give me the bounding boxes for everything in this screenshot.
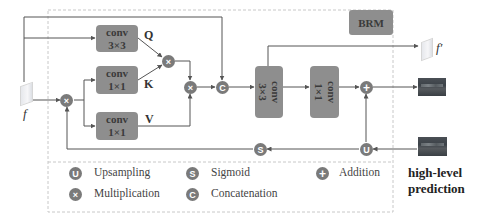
legend-upsample-icon: U [69, 167, 82, 180]
legend-concatenation-symbol: C [189, 190, 196, 200]
brm-module-label: BRM [349, 10, 393, 35]
legend-multiplication-label: Multiplication [94, 187, 160, 199]
input-label: f [23, 106, 27, 122]
legend-concatenation-label: Concatenation [211, 187, 277, 199]
multiply-symbol: × [64, 96, 69, 106]
conv-k-line1: conv [106, 67, 128, 80]
conv-fuse-line1: conv [269, 81, 282, 103]
output-feature-label: f′ [436, 40, 442, 56]
conv-q-block: conv 3×3 [96, 25, 138, 52]
conv-k-line2: 1×1 [108, 80, 125, 93]
high-level-line2: prediction [408, 181, 465, 197]
legend-addition-label: Addition [339, 166, 380, 178]
add-symbol: + [363, 81, 370, 95]
add-operator: + [360, 81, 373, 94]
multiply-qk-operator: × [162, 55, 175, 68]
conv-v-block: conv 1×1 [96, 112, 138, 140]
conv-k-block: conv 1×1 [96, 66, 138, 94]
sigmoid-operator: S [254, 143, 267, 156]
conv-fuse-line2: 3×3 [256, 83, 269, 100]
concat-operator: C [216, 81, 229, 94]
conv-v-line1: conv [106, 113, 128, 126]
conv-v-line2: 1×1 [108, 126, 125, 139]
legend-addition-symbol: + [319, 167, 326, 181]
conv-out-line2: 1×1 [312, 83, 325, 100]
multiply-input-operator: × [60, 94, 73, 107]
concat-symbol: C [219, 83, 226, 93]
legend-upsample-label: Upsampling [94, 166, 150, 178]
q-label: Q [144, 28, 153, 43]
legend-sigmoid-symbol: S [189, 169, 195, 179]
legend-multiplication-icon: × [69, 188, 82, 201]
output-prediction-image [418, 78, 446, 96]
diagram-connections [0, 0, 478, 217]
conv-fuse-text: conv 3×3 [256, 81, 282, 103]
legend-upsample-symbol: U [72, 169, 79, 179]
legend-sigmoid-icon: S [186, 167, 199, 180]
k-label: K [144, 77, 153, 92]
high-level-prediction-image [418, 137, 447, 156]
conv-out-text: conv 1×1 [312, 81, 338, 103]
upsample-operator: U [360, 143, 373, 156]
high-level-line1: high-level [408, 165, 465, 181]
upsample-symbol: U [363, 145, 370, 155]
conv-out-block: conv 1×1 [310, 66, 339, 118]
legend-multiplication-symbol: × [73, 190, 78, 200]
legend-addition-icon: + [316, 167, 329, 180]
legend-sigmoid-label: Sigmoid [211, 166, 250, 178]
sigmoid-symbol: S [257, 145, 263, 155]
conv-out-line1: conv [325, 81, 338, 103]
high-level-prediction-label: high-level prediction [408, 165, 465, 197]
multiply-symbol: × [188, 83, 193, 93]
legend-concatenation-icon: C [186, 188, 199, 201]
v-label: V [145, 112, 154, 127]
multiply-v-operator: × [184, 81, 197, 94]
multiply-symbol: × [166, 57, 171, 67]
brm-title: BRM [358, 17, 384, 29]
conv-q-line2: 3×3 [108, 39, 125, 52]
conv-q-line1: conv [106, 26, 128, 39]
conv-fuse-block: conv 3×3 [255, 66, 283, 118]
